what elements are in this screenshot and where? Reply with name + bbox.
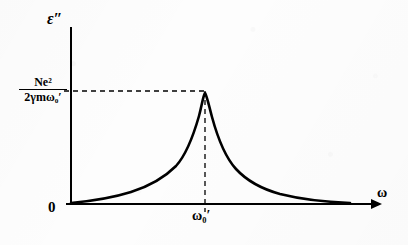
fraction-denominator: 2γmω₀′ [17,90,69,103]
peak-value-fraction-label: Ne² 2γmω₀′ [17,76,69,103]
y-axis-label: ε″ [47,11,62,27]
fraction-numerator: Ne² [17,76,69,89]
absorption-curve [71,93,350,203]
origin-label: 0 [48,200,56,215]
x-axis-arrowhead [371,199,382,209]
x-axis-label: ω [377,186,387,200]
x-axis-tick-label-resonance: ω₀′ [192,209,210,223]
lorentzian-absorption-figure: ε″ ω 0 ω₀′ Ne² 2γmω₀′ [0,0,408,245]
